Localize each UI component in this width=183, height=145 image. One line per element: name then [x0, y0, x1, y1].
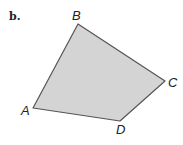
vertex-label-a: A	[20, 103, 30, 118]
vertex-label-d: D	[116, 122, 125, 137]
quadrilateral-abcd	[33, 24, 165, 121]
part-label: b.	[9, 10, 21, 23]
quadrilateral-figure: b. A B C D	[0, 0, 183, 145]
vertex-label-c: C	[168, 75, 178, 90]
quadrilateral-diagram: A B C D	[0, 0, 183, 145]
vertex-label-b: B	[72, 8, 81, 23]
